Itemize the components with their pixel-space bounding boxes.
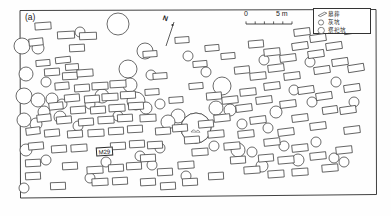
legend-label-sacrificial-pit: 祭祀坑 [328, 27, 346, 34]
sacrificial-pit-symbol-icon [317, 27, 328, 34]
legend-label-ash-pit: 灰坑 [328, 19, 340, 26]
legend-item-ash-pit: 灰坑 [317, 18, 368, 26]
legend-item-sacrificial-pit: 祭祀坑 [317, 26, 368, 34]
ash-pit-symbol-icon [317, 19, 328, 26]
figure-panel: (a) N 0 5 m 墓葬 灰坑 [0, 0, 391, 216]
north-arrow-line [166, 22, 174, 46]
scale-bar-graphic [246, 21, 292, 24]
legend-item-tomb: 墓葬 [317, 11, 368, 19]
tomb-symbol-icon [317, 11, 328, 18]
legend-box: 墓葬 灰坑 祭祀坑 [313, 8, 371, 34]
legend-label-tomb: 墓葬 [328, 11, 340, 18]
